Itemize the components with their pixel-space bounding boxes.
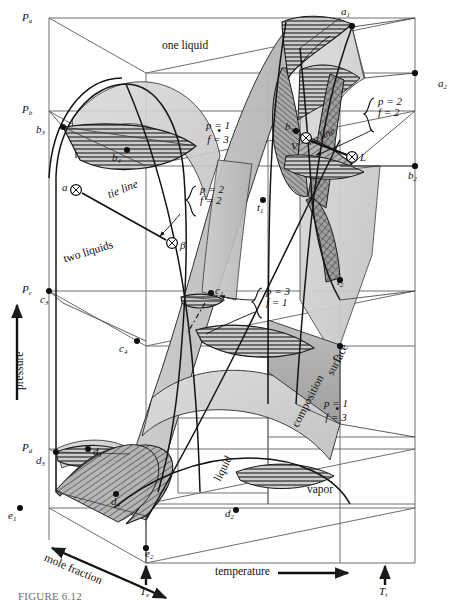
- point-label-V: V: [291, 141, 298, 152]
- point-label-b1: b1: [285, 121, 294, 134]
- f-value: •f = 3: [207, 134, 228, 145]
- vertex-a2: [412, 70, 418, 76]
- point-label-d2: d2: [225, 508, 234, 521]
- region-vapor: vapor: [307, 484, 333, 496]
- point-label-L: L: [360, 152, 366, 163]
- vertex-a1: [349, 23, 355, 29]
- point-label-b3: b3: [36, 124, 45, 137]
- temperature-axis-label: temperature: [215, 566, 270, 578]
- pressure-axis-label: pressure: [14, 352, 26, 390]
- f-value: f = 2: [378, 107, 402, 118]
- point-label-d1: d1: [93, 446, 102, 459]
- point-label-e2: e2: [145, 548, 153, 561]
- marker-alpha: [71, 185, 82, 196]
- point-label-a2: a2: [438, 78, 447, 91]
- point-label-alpha: a: [62, 182, 68, 193]
- point-label-c3: c3: [40, 294, 48, 307]
- temperature-tick-Tt: Tt: [379, 586, 387, 599]
- pressure-tick-Pa: Pa: [22, 12, 32, 25]
- point-label-d4: d4: [111, 496, 120, 509]
- point-label-beta: β: [180, 240, 185, 251]
- pressure-tick-Pd: Pd: [22, 442, 32, 455]
- phase-rule-three-phase: p = 3 f = 1: [266, 286, 290, 308]
- f-value: f = 1: [266, 297, 290, 308]
- phase-rule-one-phase-vapor: p = 1 •f = 3: [324, 398, 348, 423]
- point-label-d3: d3: [36, 455, 45, 468]
- vertex-b4: [124, 147, 130, 153]
- vertex-c1: [208, 290, 214, 296]
- f-value: •f = 3: [325, 412, 346, 423]
- vertex-d3: [53, 449, 59, 455]
- phase-rule-two-phase-left: p = 2 f = 2: [200, 184, 224, 206]
- point-label-c4: c4: [119, 343, 127, 356]
- point-label-c2: c2: [333, 351, 341, 364]
- point-label-b4: b4: [112, 152, 121, 165]
- tie-line-alpha-beta: [82, 193, 166, 240]
- point-label-b2: b2: [408, 170, 417, 183]
- pressure-tick-Pb: Pb: [22, 104, 32, 117]
- brace-two-phase-right: [364, 98, 374, 132]
- marker-L: [347, 152, 358, 163]
- figure-caption: FIGURE 6.12: [18, 590, 82, 600]
- vertex-c4: [134, 338, 140, 344]
- f-value: f = 2: [200, 195, 224, 206]
- marker-beta: [167, 238, 178, 249]
- point-label-a1: a1: [341, 6, 350, 19]
- point-label-e1: e1: [8, 510, 16, 523]
- phase-rule-two-phase-right: p = 2 f = 2: [378, 96, 402, 118]
- point-label-t1: t1: [257, 202, 263, 215]
- temperature-tick-Te: Te: [140, 586, 149, 599]
- vertex-d1: [85, 446, 91, 452]
- pressure-tick-Pc: Pc: [22, 284, 32, 297]
- phase-rule-one-phase-top: p = 1 •f = 3: [206, 120, 230, 145]
- brace-two-phase-left: [186, 186, 196, 216]
- vertex-e1: [17, 505, 23, 511]
- region-one-liquid: one liquid: [162, 40, 208, 52]
- point-label-c1: c1: [215, 285, 223, 298]
- vertex-b3: [60, 124, 66, 130]
- point-label-t2: t2: [337, 276, 343, 289]
